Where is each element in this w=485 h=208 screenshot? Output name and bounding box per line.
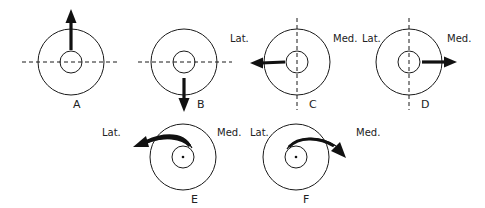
- panel-b: B: [138, 29, 232, 112]
- arrow-left-icon: [250, 58, 285, 69]
- panel-label-d: D: [421, 98, 429, 111]
- panel-label-e: E: [191, 193, 198, 206]
- medial-label: Med.: [356, 127, 380, 138]
- center-dot: [182, 156, 185, 159]
- lateral-label: Lat.: [362, 33, 381, 44]
- medial-label: Med.: [217, 127, 241, 138]
- lateral-label: Lat.: [250, 127, 269, 138]
- center-dot: [295, 156, 298, 159]
- panel-a: A: [22, 9, 118, 111]
- curved-arrow-medial-icon: [287, 138, 346, 158]
- arrow-right-icon: [422, 57, 457, 68]
- panel-e: Lat. E Med.: [102, 124, 241, 206]
- lateral-label: Lat.: [102, 127, 121, 138]
- medial-label: Med.: [333, 33, 357, 44]
- diagram-canvas: A B Lat. C Med. Lat. D Me: [0, 0, 485, 208]
- medial-label: Med.: [447, 33, 471, 44]
- panel-d: Lat. D Med.: [362, 18, 471, 111]
- panel-label-a: A: [73, 98, 81, 111]
- lateral-label: Lat.: [230, 33, 249, 44]
- panel-label-b: B: [197, 98, 205, 111]
- panel-label-c: C: [309, 98, 317, 111]
- panel-c: Lat. C Med.: [230, 18, 357, 111]
- panel-f: Lat. F Med.: [250, 124, 380, 206]
- panel-label-f: F: [303, 193, 309, 206]
